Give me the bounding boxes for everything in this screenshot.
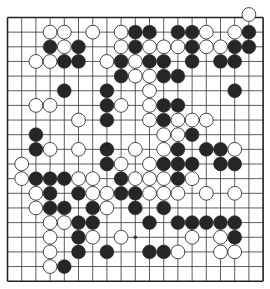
white-stone [114,157,128,171]
black-stone [214,157,228,171]
white-stone [143,186,157,200]
white-stone [157,128,171,142]
white-stone [43,245,57,259]
black-stone [171,157,185,171]
white-stone [157,142,171,156]
black-stone [114,69,128,83]
black-stone [72,186,86,200]
white-stone [199,40,213,54]
white-stone [143,40,157,54]
white-stone [228,142,242,156]
black-stone [185,25,199,39]
white-stone [171,128,185,142]
white-stone [29,186,43,200]
white-stone [72,142,86,156]
black-stone [43,172,57,186]
white-stone [171,40,185,54]
white-stone [86,172,100,186]
black-stone [143,216,157,230]
black-stone [100,142,114,156]
white-stone [199,186,213,200]
white-stone [100,186,114,200]
black-stone [86,216,100,230]
black-stone [228,84,242,98]
white-stone [43,55,57,69]
white-stone [114,25,128,39]
white-stone [228,25,242,39]
white-stone [43,230,57,244]
white-stone [29,99,43,113]
black-stone [29,142,43,156]
white-stone [43,142,57,156]
black-stone [157,157,171,171]
white-stone [214,230,228,244]
white-stone [157,40,171,54]
white-stone [72,172,86,186]
black-stone [72,216,86,230]
black-stone [171,25,185,39]
white-stone [57,25,71,39]
black-stone [57,201,71,215]
white-stone [15,172,29,186]
white-stone [15,157,29,171]
black-stone [57,172,71,186]
white-stone [114,230,128,244]
black-stone [57,260,71,274]
white-stone [114,99,128,113]
white-stone [185,230,199,244]
black-stone [72,40,86,54]
black-stone [128,25,142,39]
white-stone [29,201,43,215]
white-stone [143,113,157,127]
black-stone [228,157,242,171]
black-stone [43,186,57,200]
white-stone [86,25,100,39]
white-stone [57,40,71,54]
white-stone [185,172,199,186]
white-stone [43,99,57,113]
white-stone [86,230,100,244]
black-stone [43,40,57,54]
black-stone [100,157,114,171]
star-point-icon [134,235,138,239]
black-stone [214,216,228,230]
black-stone [171,99,185,113]
black-stone [29,172,43,186]
black-stone [128,201,142,215]
white-stone [143,157,157,171]
black-stone [100,99,114,113]
black-stone [128,186,142,200]
black-stone [185,216,199,230]
black-stone [114,55,128,69]
black-stone [72,245,86,259]
black-stone [171,69,185,83]
white-stone [43,25,57,39]
black-stone [228,230,242,244]
black-stone [171,142,185,156]
black-stone [157,113,171,127]
go-board[interactable] [0,0,270,289]
black-stone [143,55,157,69]
black-stone [143,25,157,39]
white-stone [29,55,43,69]
white-stone [171,245,185,259]
white-stone [128,172,142,186]
black-stone [72,230,86,244]
white-stone [143,69,157,83]
white-stone [43,260,57,274]
white-stone [57,216,71,230]
white-stone [72,113,86,127]
black-stone [57,55,71,69]
white-stone [199,113,213,127]
white-stone [171,113,185,127]
black-stone [114,172,128,186]
black-stone [143,245,157,259]
go-board-grid[interactable] [0,0,270,289]
white-stone [171,186,185,200]
black-stone [100,245,114,259]
white-stone [214,245,228,259]
black-stone [43,201,57,215]
black-stone [199,142,213,156]
black-stone [185,55,199,69]
black-stone [29,128,43,142]
